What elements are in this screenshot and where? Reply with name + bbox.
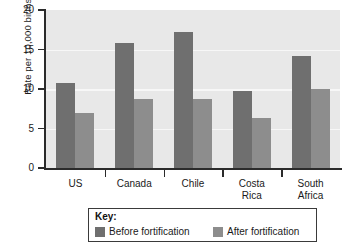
bar <box>292 56 311 168</box>
x-axis-label: US <box>46 178 105 190</box>
x-axis-label: Costa Rica <box>222 178 281 201</box>
bar <box>115 43 134 168</box>
x-axis-line <box>44 168 342 170</box>
bar <box>233 91 252 168</box>
bar <box>252 118 271 168</box>
grouped-bar-chart: Rate per 10,000 births 05101520 USCanada… <box>0 0 356 248</box>
y-axis-title: Rate per 10,000 births <box>23 0 33 127</box>
bar <box>193 99 212 168</box>
x-axis-label: South Africa <box>281 178 340 201</box>
x-axis-tick-mark <box>105 170 107 177</box>
legend-swatch-icon <box>95 227 105 237</box>
legend-title: Key: <box>95 212 117 222</box>
y-axis-tick-label: 5 <box>12 124 34 134</box>
bar <box>174 32 193 168</box>
x-axis-label: Canada <box>105 178 164 190</box>
bar <box>75 113 94 168</box>
y-axis-tick-label: 15 <box>12 45 34 55</box>
y-axis-tick-label: 20 <box>12 5 34 15</box>
y-axis-tick-mark <box>38 88 44 90</box>
y-axis-tick-mark <box>38 167 44 169</box>
x-axis-tick-mark <box>281 170 283 177</box>
x-axis-tick-mark <box>222 170 224 177</box>
bar <box>134 99 153 168</box>
y-axis-tick-label: 10 <box>12 84 34 94</box>
bars-group <box>46 10 340 168</box>
x-axis-label: Chile <box>164 178 223 190</box>
y-axis-tick-mark <box>38 49 44 51</box>
x-axis-tick-mark <box>164 170 166 177</box>
y-axis-tick-label: 0 <box>12 163 34 173</box>
bar <box>56 83 75 168</box>
legend: Key: Before fortificationAfter fortifica… <box>88 208 317 242</box>
legend-label: Before fortification <box>109 227 190 237</box>
bar <box>311 89 330 168</box>
y-axis-tick-mark <box>38 9 44 11</box>
legend-entry[interactable]: After fortification <box>213 227 299 237</box>
legend-entry[interactable]: Before fortification <box>95 227 190 237</box>
y-axis-tick-mark <box>38 128 44 130</box>
legend-swatch-icon <box>213 227 223 237</box>
legend-label: After fortification <box>227 227 299 237</box>
